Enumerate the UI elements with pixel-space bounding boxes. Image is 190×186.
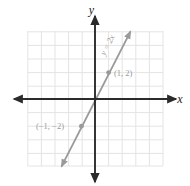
- graph-canvas: (1, 2) (−1, −2) y = 2x y x: [0, 0, 190, 186]
- data-point-1-2: [106, 70, 111, 75]
- data-point-label-1-2: (1, 2): [114, 68, 133, 78]
- data-point-label-neg1-neg2: (−1, −2): [36, 121, 64, 131]
- data-point-neg1-neg2: [79, 124, 84, 129]
- coordinate-plane-graph: (1, 2) (−1, −2) y = 2x y x: [0, 0, 190, 186]
- y-axis-label: y: [88, 3, 95, 17]
- x-axis-label: x: [176, 92, 183, 106]
